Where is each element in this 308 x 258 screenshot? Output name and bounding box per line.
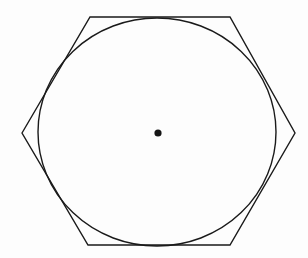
center-point-dot (154, 129, 161, 136)
figure-background (0, 0, 308, 258)
geometry-figure-canvas (0, 0, 308, 258)
geometry-figure-svg (0, 0, 308, 258)
